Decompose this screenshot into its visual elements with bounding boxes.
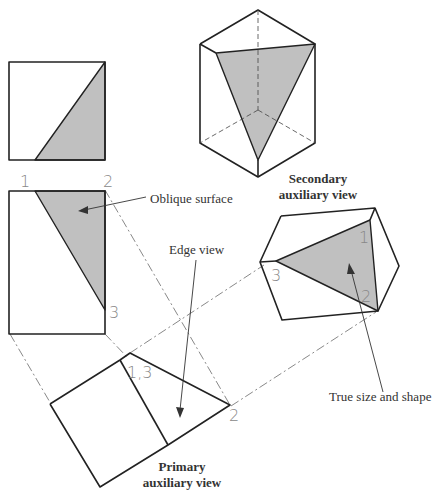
point-label-1-3: 1,3 bbox=[127, 363, 152, 382]
edge-view-label: Edge view bbox=[169, 242, 225, 257]
top-view bbox=[9, 62, 105, 160]
secondary-title-line2: auxiliary view bbox=[279, 187, 358, 202]
point-label-3-secondary: 3 bbox=[271, 266, 281, 285]
point-label-3: 3 bbox=[109, 303, 119, 322]
point-label-2-secondary: 2 bbox=[361, 287, 371, 306]
true-size-label: True size and shape bbox=[329, 389, 432, 404]
arrowhead-icon bbox=[176, 407, 184, 418]
point-label-1: 1 bbox=[20, 172, 30, 191]
leader-lines bbox=[78, 197, 383, 418]
secondary-title-line1: Secondary bbox=[289, 171, 348, 186]
oblique-surface-label: Oblique surface bbox=[150, 191, 233, 206]
primary-title-line2: auxiliary view bbox=[143, 475, 222, 490]
point-label-2-primary: 2 bbox=[229, 406, 239, 425]
point-label-1-secondary: 1 bbox=[359, 228, 369, 247]
auxiliary-view-diagram: 1 2 3 1,3 2 1 2 3 Oblique surface Edge v… bbox=[0, 0, 447, 495]
secondary-auxiliary-view: 1 2 3 bbox=[260, 208, 399, 320]
point-label-2: 2 bbox=[103, 172, 113, 191]
pictorial-view bbox=[200, 10, 315, 177]
primary-auxiliary-view: 1,3 2 bbox=[50, 353, 239, 487]
primary-title-line1: Primary bbox=[159, 459, 206, 474]
front-view: 1 2 3 bbox=[9, 172, 119, 334]
